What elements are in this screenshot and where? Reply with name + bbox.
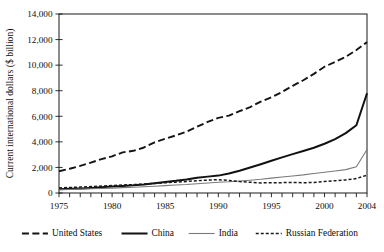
chart-figure: 02,0004,0006,0008,00010,00012,00014,000 … bbox=[0, 0, 384, 252]
y-tick-label: 8,000 bbox=[32, 86, 53, 96]
legend-label: United States bbox=[52, 228, 103, 238]
chart-background bbox=[0, 0, 384, 252]
y-tick-label: 4,000 bbox=[32, 137, 53, 147]
y-axis-title: Current international dollars ($ billion… bbox=[4, 29, 16, 179]
y-tick-label: 10,000 bbox=[27, 60, 53, 70]
line-chart: 02,0004,0006,0008,00010,00012,00014,000 … bbox=[0, 0, 384, 252]
legend-label: Russian Federation bbox=[286, 228, 358, 238]
y-tick-label: 12,000 bbox=[27, 35, 53, 45]
x-tick-label: 2000 bbox=[315, 201, 334, 211]
legend-label: India bbox=[219, 228, 239, 238]
x-tick-label: 1985 bbox=[156, 201, 175, 211]
x-tick-label: 1975 bbox=[50, 201, 69, 211]
x-tick-label: 1995 bbox=[262, 201, 281, 211]
y-tick-label: 2,000 bbox=[32, 163, 53, 173]
legend-label: China bbox=[152, 228, 175, 238]
y-tick-label: 6,000 bbox=[32, 112, 53, 122]
y-tick-label: 0 bbox=[48, 188, 53, 198]
x-tick-label: 1990 bbox=[209, 201, 228, 211]
x-tick-label: 1980 bbox=[103, 201, 122, 211]
y-tick-label: 14,000 bbox=[27, 9, 53, 19]
x-tick-label: 2004 bbox=[358, 201, 377, 211]
